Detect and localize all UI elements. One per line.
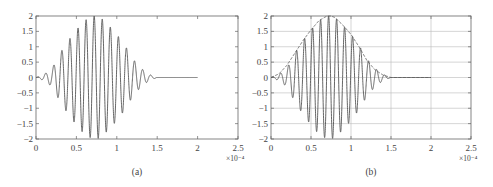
y-tick-label: 0.5: [257, 57, 269, 67]
x-tick-label: 0.5: [71, 143, 83, 153]
y-tick-label: 0: [264, 73, 269, 83]
x-tick-label: 0: [34, 143, 39, 153]
y-tick-label: −0.5: [252, 88, 269, 98]
chart-panel-a: 00.511.522.521.510.50−0.5−1−1.5−2×10⁻⁴(a…: [17, 11, 245, 178]
x-tick-label: 0.5: [305, 143, 317, 153]
x-tick-label: 0: [269, 143, 274, 153]
y-tick-label: 1: [264, 42, 269, 52]
chart-caption: (a): [132, 167, 143, 178]
y-tick-label: −0.5: [17, 88, 34, 98]
y-tick-label: −2: [258, 134, 268, 144]
x-tick-label: 2: [195, 143, 200, 153]
y-tick-label: 2: [264, 11, 269, 21]
y-tick-label: −1: [23, 103, 33, 113]
y-tick-label: 1: [29, 42, 34, 52]
y-tick-label: −2: [23, 134, 33, 144]
x-tick-label: 1.5: [152, 143, 164, 153]
y-tick-label: 2: [29, 11, 34, 21]
x-tick-label: 2: [429, 143, 434, 153]
y-tick-label: 0: [29, 73, 34, 83]
x-tick-label: 1: [115, 143, 120, 153]
y-tick-label: −1: [258, 103, 268, 113]
chart-panel-b: 00.511.522.521.510.50−0.5−1−1.5−2×10⁻⁴(b…: [252, 11, 478, 178]
y-tick-label: −1.5: [252, 119, 269, 129]
x-multiplier-label: ×10⁻⁴: [226, 154, 245, 163]
y-tick-label: 1.5: [257, 26, 269, 36]
x-tick-label: 1: [349, 143, 354, 153]
x-multiplier-label: ×10⁻⁴: [459, 154, 478, 163]
y-tick-label: −1.5: [17, 119, 34, 129]
chart-caption: (b): [365, 167, 376, 178]
x-tick-label: 1.5: [385, 143, 397, 153]
signal-line: [36, 16, 198, 138]
x-tick-label: 2.5: [465, 143, 477, 153]
figure: 00.511.522.521.510.50−0.5−1−1.5−2×10⁻⁴(a…: [0, 0, 493, 187]
x-tick-label: 2.5: [232, 143, 244, 153]
y-tick-label: 0.5: [22, 57, 34, 67]
y-tick-label: 1.5: [22, 26, 34, 36]
